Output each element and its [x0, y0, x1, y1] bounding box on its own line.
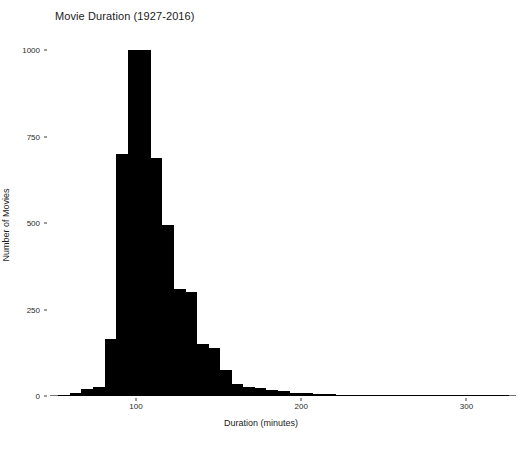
- histogram-bar: [371, 395, 383, 396]
- histogram-bar: [266, 390, 278, 396]
- histogram-bar: [116, 154, 128, 396]
- x-axis-title: Duration (minutes): [0, 418, 522, 428]
- histogram-bar: [336, 395, 348, 396]
- histogram-bar: [440, 395, 452, 396]
- histogram-bar: [81, 389, 93, 396]
- y-tick-label: 0: [10, 392, 40, 401]
- x-tick-mark: [466, 398, 467, 401]
- histogram-bar: [486, 395, 498, 396]
- histogram-bar: [255, 388, 267, 396]
- y-tick-label: 750: [10, 132, 40, 141]
- histogram-bar: [278, 391, 290, 396]
- histogram-bar: [58, 395, 70, 396]
- chart-title: Movie Duration (1927-2016): [55, 10, 195, 22]
- histogram-bar: [162, 225, 174, 396]
- histogram-bar: [324, 394, 336, 396]
- histogram-bar: [243, 387, 255, 396]
- histogram-bar: [139, 50, 151, 396]
- histogram-bar: [151, 158, 163, 396]
- y-tick-mark: [44, 396, 47, 397]
- x-tick-mark: [301, 398, 302, 401]
- y-tick-mark: [44, 223, 47, 224]
- histogram-bar: [128, 50, 140, 396]
- histogram-bar: [105, 339, 117, 396]
- histogram-bar: [209, 348, 221, 396]
- histogram-bar: [452, 395, 464, 396]
- histogram-bar: [232, 384, 244, 396]
- y-tick-mark: [44, 136, 47, 137]
- chart-canvas: Movie Duration (1927-2016) Number of Mov…: [0, 0, 522, 450]
- histogram-bar: [463, 395, 475, 396]
- x-tick-label: 300: [460, 402, 473, 411]
- histogram-bar: [313, 394, 325, 396]
- histogram-bar: [475, 395, 487, 396]
- histogram-bar: [70, 393, 82, 396]
- histogram-bar: [405, 395, 417, 396]
- histogram-bar: [347, 395, 359, 396]
- histogram-bar: [417, 395, 429, 396]
- plot-panel: [50, 40, 516, 396]
- x-tick-label: 100: [129, 402, 142, 411]
- histogram-bar: [428, 395, 440, 396]
- y-tick-label: 500: [10, 219, 40, 228]
- y-tick-mark: [44, 50, 47, 51]
- histogram-bar: [220, 370, 232, 396]
- histogram-bar: [186, 292, 198, 396]
- histogram-bar: [394, 395, 406, 396]
- histogram-bar: [498, 395, 510, 396]
- y-tick-label: 1000: [10, 46, 40, 55]
- histogram-bar: [382, 395, 394, 396]
- y-tick-mark: [44, 309, 47, 310]
- histogram-bar: [197, 344, 209, 396]
- x-tick-mark: [135, 398, 136, 401]
- histogram-bar: [290, 393, 302, 396]
- histogram-bar: [93, 387, 105, 396]
- x-tick-label: 200: [294, 402, 307, 411]
- histogram-bar: [174, 289, 186, 396]
- histogram-bar: [301, 393, 313, 396]
- y-tick-label: 250: [10, 305, 40, 314]
- histogram-bar: [359, 395, 371, 396]
